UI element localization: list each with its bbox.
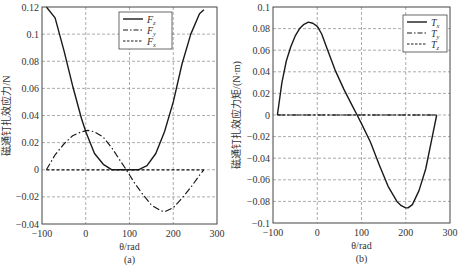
y-tick-label: 0.1 [258,2,271,13]
y-tick-label: 0.12 [22,2,40,13]
x-tick-label: 200 [398,227,413,238]
x-tick-label: 100 [354,227,369,238]
y-axis-label: 磁通钉扎效应力矩/(N·m) [230,61,243,169]
y-tick-label: 0.04 [253,66,271,77]
y-tick-label: 0.02 [253,88,271,99]
x-tick-label: −100 [263,227,284,238]
x-tick-label: 200 [166,228,181,239]
y-tick-label: 0 [265,110,270,121]
y-tick-label: 0.1 [27,29,40,40]
y-tick-label: 0.08 [253,23,271,34]
x-tick-label: 100 [122,228,137,239]
x-axis-label: θ/rad [119,241,139,252]
y-tick-label: −0.06 [247,174,270,185]
figure: −10001002003000.120.10.080.060.040.020−0… [0,0,459,271]
x-tick-label: 300 [210,228,225,239]
panel-caption: (b) [356,253,368,265]
chart-panel-b: −10001002003000.10.080.060.040.020−0.02−… [230,2,458,266]
y-tick-label: 0.02 [22,137,40,148]
x-tick-label: 0 [83,228,88,239]
x-axis-label: θ/rad [351,240,371,251]
y-tick-label: −0.08 [247,196,270,207]
y-tick-label: 0.04 [22,110,40,121]
series-fy [46,130,204,211]
legend: FzFyFx [119,12,172,49]
y-tick-label: −0.04 [247,153,270,164]
x-tick-label: 300 [443,227,458,238]
panel-caption: (a) [124,254,135,266]
y-tick-label: 0 [34,164,39,175]
y-tick-label: −0.1 [252,218,270,229]
y-tick-label: 0.08 [22,56,40,67]
chart-panel-a: −10001002003000.120.10.080.060.040.020−0… [0,2,225,267]
y-axis-label: 磁通钉扎效应力/N [0,76,12,156]
x-tick-label: −100 [32,228,53,239]
x-tick-label: 0 [315,227,320,238]
legend: TxTyTz [403,15,447,52]
y-tick-label: 0.06 [253,45,271,56]
y-tick-label: 0.06 [22,83,40,94]
y-tick-label: −0.04 [16,219,39,230]
y-tick-label: −0.02 [16,191,39,202]
y-tick-label: −0.02 [247,131,270,142]
